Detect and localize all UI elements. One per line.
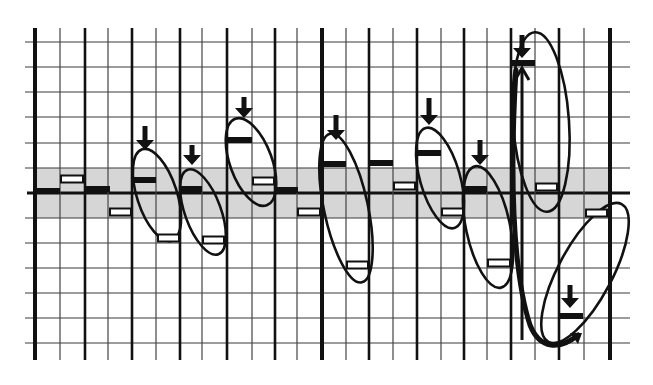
solid-bar (86, 186, 110, 192)
solid-bar (512, 60, 535, 66)
hollow-bar (61, 176, 83, 183)
solid-bar (370, 160, 393, 166)
hollow-bar (203, 237, 224, 244)
hollow-bar (298, 209, 320, 216)
solid-bar (418, 150, 441, 156)
solid-bar (276, 187, 298, 193)
solid-bar (181, 186, 202, 192)
solid-bar (36, 188, 60, 194)
solid-bar (560, 313, 583, 319)
hollow-bar (586, 210, 607, 217)
hollow-bar (442, 209, 463, 216)
hollow-bar (110, 209, 131, 216)
solid-bar (228, 137, 252, 143)
hollow-bar (347, 262, 368, 269)
hollow-bar (394, 183, 415, 190)
hollow-bar (536, 184, 557, 191)
grid-diagram (0, 0, 653, 385)
hollow-bar (158, 235, 179, 242)
hollow-bar (253, 178, 274, 185)
hollow-bar (488, 260, 510, 267)
solid-bar (133, 177, 156, 183)
solid-bar (324, 161, 346, 167)
solid-bar (465, 186, 487, 192)
